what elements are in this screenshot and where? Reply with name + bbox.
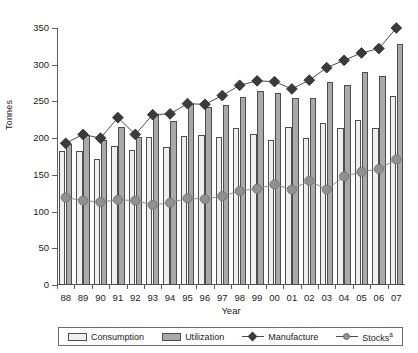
marker-manufacture-01 — [287, 84, 298, 95]
x-axis-tick — [127, 285, 128, 289]
y-axis-tick-label: 350 — [15, 23, 49, 33]
marker-manufacture-95 — [182, 98, 193, 109]
marker-manufacture-94 — [165, 109, 176, 120]
diamond-icon — [248, 332, 258, 342]
legend-label-consumption: Consumption — [91, 332, 144, 342]
legend-footnote-marker: a — [389, 331, 393, 338]
marker-stocks-02 — [305, 176, 314, 185]
x-axis-tick — [196, 285, 197, 289]
marker-manufacture-96 — [200, 99, 211, 110]
legend-item-utilization[interactable]: Utilization — [162, 332, 224, 342]
marker-manufacture-88 — [60, 138, 71, 149]
marker-stocks-00 — [270, 180, 279, 189]
x-axis-title: Year — [57, 305, 405, 316]
legend-item-stocks[interactable]: Stocksa — [336, 331, 393, 343]
y-axis-tick-label: 100 — [15, 207, 49, 217]
x-axis-tick — [161, 285, 162, 289]
x-axis-tick — [248, 285, 249, 289]
legend-swatch-consumption — [68, 333, 87, 341]
marker-stocks-01 — [287, 185, 296, 194]
x-axis-tick — [179, 285, 180, 289]
marker-stocks-99 — [253, 184, 262, 193]
marker-manufacture-97 — [217, 90, 228, 101]
legend-item-consumption[interactable]: Consumption — [68, 332, 144, 342]
x-axis-tick — [214, 285, 215, 289]
x-axis-tick — [231, 285, 232, 289]
marker-stocks-88 — [61, 193, 70, 202]
x-axis-tick — [283, 285, 284, 289]
y-axis-tick-label: 0 — [15, 280, 49, 290]
x-axis-tick — [370, 285, 371, 289]
x-axis-tick — [266, 285, 267, 289]
marker-manufacture-99 — [252, 75, 263, 86]
marker-manufacture-00 — [269, 76, 280, 87]
marker-stocks-06 — [374, 164, 383, 173]
marker-stocks-04 — [340, 172, 349, 181]
legend-marker-manufacture — [242, 332, 264, 341]
marker-stocks-05 — [357, 167, 366, 176]
marker-stocks-92 — [131, 196, 140, 205]
y-axis-tick-label: 150 — [15, 170, 49, 180]
marker-stocks-91 — [113, 195, 122, 204]
y-axis-tick-label: 200 — [15, 133, 49, 143]
x-axis-tick — [57, 285, 58, 289]
circle-icon — [343, 333, 350, 340]
x-axis-tick — [335, 285, 336, 289]
x-axis-tick — [318, 285, 319, 289]
marker-stocks-93 — [148, 200, 157, 209]
marker-stocks-96 — [200, 194, 209, 203]
marker-stocks-95 — [183, 194, 192, 203]
line-series-layer — [57, 28, 405, 285]
y-axis-tick-label: 50 — [15, 243, 49, 253]
marker-stocks-90 — [96, 197, 105, 206]
x-axis-tick — [301, 285, 302, 289]
marker-manufacture-03 — [321, 62, 332, 73]
marker-manufacture-02 — [304, 75, 315, 86]
marker-manufacture-05 — [356, 48, 367, 59]
plot-area: 8889909192939495969798990001020304050607 — [57, 28, 405, 285]
legend-label-stocks: Stocksa — [362, 331, 393, 343]
marker-stocks-98 — [235, 186, 244, 195]
marker-manufacture-98 — [234, 80, 245, 91]
chart-legend: ConsumptionUtilizationManufactureStocksa — [58, 327, 403, 346]
marker-stocks-97 — [218, 192, 227, 201]
marker-stocks-94 — [166, 198, 175, 207]
marker-manufacture-89 — [78, 129, 89, 140]
marker-stocks-89 — [79, 196, 88, 205]
x-axis-tick-label: 07 — [386, 293, 406, 303]
x-axis-tick — [92, 285, 93, 289]
legend-marker-stocks — [336, 332, 358, 341]
x-axis-tick — [74, 285, 75, 289]
legend-label-utilization: Utilization — [185, 332, 224, 342]
marker-stocks-07 — [392, 155, 401, 164]
y-axis-title: Tonnes — [4, 116, 14, 130]
chart-container: Tonnes 888990919293949596979899000102030… — [0, 0, 418, 353]
legend-item-manufacture[interactable]: Manufacture — [242, 332, 318, 342]
y-axis-tick-label: 300 — [15, 60, 49, 70]
y-axis-tick-label: 250 — [15, 96, 49, 106]
marker-stocks-03 — [322, 185, 331, 194]
x-axis-tick — [388, 285, 389, 289]
legend-swatch-utilization — [162, 333, 181, 341]
x-axis-tick — [144, 285, 145, 289]
marker-manufacture-04 — [339, 55, 350, 66]
x-axis-tick — [109, 285, 110, 289]
line-manufacture — [66, 28, 397, 143]
legend-label-manufacture: Manufacture — [268, 332, 318, 342]
x-axis-tick — [353, 285, 354, 289]
